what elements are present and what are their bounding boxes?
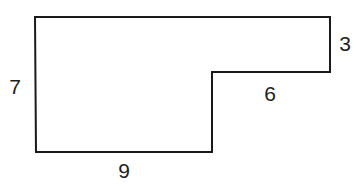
l-shaped-polygon xyxy=(35,17,330,152)
label-left-side-length: 7 xyxy=(9,75,21,98)
label-bottom-side-length: 9 xyxy=(118,159,130,182)
label-inner-top-length: 6 xyxy=(264,82,276,105)
l-shape-diagram: 7 3 6 9 xyxy=(0,0,360,190)
label-right-side-length: 3 xyxy=(339,32,351,55)
